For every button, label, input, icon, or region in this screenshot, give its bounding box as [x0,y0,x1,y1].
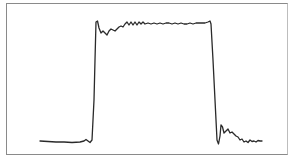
pulse-waveform [0,0,291,158]
pulse-trace [40,21,262,144]
